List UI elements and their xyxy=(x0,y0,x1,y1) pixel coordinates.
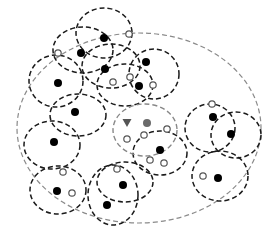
cluster-boundary xyxy=(129,49,179,99)
filled-point-icon xyxy=(156,146,164,154)
points-layer xyxy=(50,31,235,209)
open-point-icon xyxy=(126,31,132,37)
filled-point-icon xyxy=(100,34,108,42)
open-point-icon xyxy=(69,190,75,196)
highlight-point-icon xyxy=(143,119,151,127)
filled-point-icon xyxy=(119,181,127,189)
cluster-boundary xyxy=(50,94,106,136)
open-point-icon xyxy=(209,101,215,107)
filled-point-icon xyxy=(101,65,109,73)
filled-point-icon xyxy=(50,138,58,146)
open-point-icon xyxy=(161,160,167,166)
open-point-icon xyxy=(147,157,153,163)
filled-point-icon xyxy=(71,108,79,116)
filled-point-icon xyxy=(142,58,150,66)
open-point-icon xyxy=(110,79,116,85)
open-point-icon xyxy=(60,169,66,175)
cluster-boundary xyxy=(88,165,138,225)
filled-point-icon xyxy=(209,113,217,121)
open-point-icon xyxy=(124,136,130,142)
cluster-boundary xyxy=(185,104,235,152)
query-triangle-icon xyxy=(123,119,132,127)
open-point-icon xyxy=(150,82,156,88)
filled-point-icon xyxy=(227,130,235,138)
filled-point-icon xyxy=(214,174,222,182)
open-point-icon xyxy=(127,74,133,80)
open-point-icon xyxy=(114,166,120,172)
filled-point-icon xyxy=(135,82,143,90)
filled-point-icon xyxy=(54,79,62,87)
filled-point-icon xyxy=(53,187,61,195)
open-point-icon xyxy=(141,132,147,138)
clustering-diagram xyxy=(0,0,273,242)
open-point-icon xyxy=(164,126,170,132)
filled-point-icon xyxy=(103,201,111,209)
open-point-icon xyxy=(55,50,61,56)
filled-point-icon xyxy=(77,49,85,57)
open-point-icon xyxy=(200,173,206,179)
